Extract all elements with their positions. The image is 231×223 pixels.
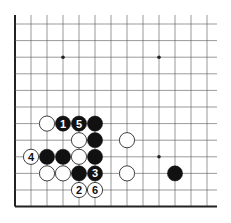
star-point — [157, 155, 161, 159]
black-stone — [167, 166, 182, 181]
move-number-label: 1 — [60, 118, 66, 130]
stone-disc — [55, 166, 70, 181]
black-stone — [87, 149, 102, 164]
black-stone — [71, 166, 86, 181]
stone-disc — [167, 166, 182, 181]
stone-disc — [87, 133, 102, 148]
stone-disc — [39, 116, 54, 131]
stone-disc — [119, 166, 134, 181]
white-stone — [71, 133, 86, 148]
white-stone — [119, 166, 134, 181]
black-stone-move-5: 5 — [71, 116, 86, 131]
white-stone — [39, 116, 54, 131]
stone-disc — [71, 149, 86, 164]
move-number-label: 6 — [92, 184, 98, 196]
black-stone — [39, 149, 54, 164]
move-number-label: 4 — [28, 151, 35, 163]
stone-disc — [87, 149, 102, 164]
move-number-label: 3 — [92, 167, 98, 179]
star-point — [157, 55, 161, 59]
black-stone-move-1: 1 — [55, 116, 70, 131]
white-stone — [119, 133, 134, 148]
black-stone — [87, 116, 102, 131]
move-number-label: 5 — [76, 118, 82, 130]
white-stone-move-6: 6 — [87, 182, 102, 197]
black-stone-move-3: 3 — [87, 166, 102, 181]
stone-disc — [39, 166, 54, 181]
stone-disc — [119, 133, 134, 148]
white-stone-move-4: 4 — [23, 149, 38, 164]
move-number-label: 2 — [76, 184, 82, 196]
stone-disc — [71, 133, 86, 148]
stone-disc — [71, 166, 86, 181]
white-stone-move-2: 2 — [71, 182, 86, 197]
stone-disc — [55, 149, 70, 164]
white-stone — [71, 149, 86, 164]
black-stone — [87, 133, 102, 148]
black-stone — [55, 149, 70, 164]
go-board: 154326 — [0, 0, 231, 223]
white-stone — [55, 166, 70, 181]
stone-disc — [87, 116, 102, 131]
white-stone — [39, 166, 54, 181]
stone-disc — [39, 149, 54, 164]
star-point — [61, 55, 65, 59]
